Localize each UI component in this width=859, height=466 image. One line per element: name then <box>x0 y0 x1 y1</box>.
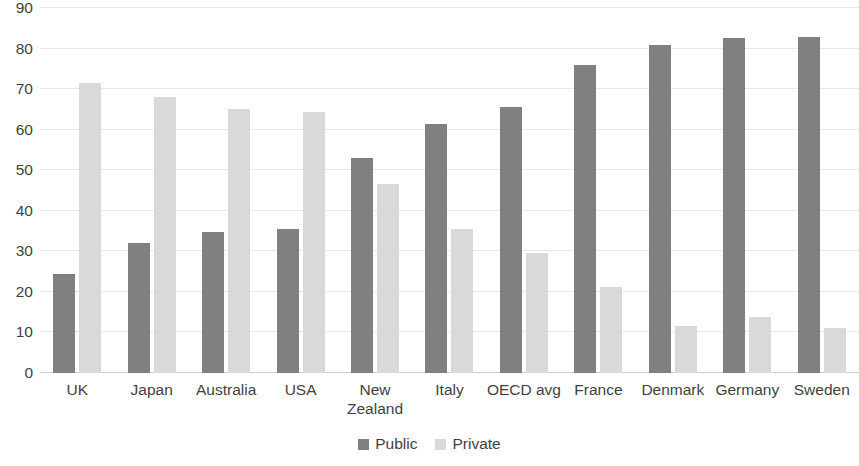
x-axis-label-oecd-avg: OECD avg <box>487 377 561 425</box>
y-axis-tick-20: 20 <box>16 284 33 299</box>
y-axis-tick-60: 60 <box>16 122 33 137</box>
x-axis-label-denmark: Denmark <box>636 377 710 425</box>
y-axis-tick-10: 10 <box>16 324 33 339</box>
x-axis-label-new-zealand: New Zealand <box>338 377 412 425</box>
bar-private <box>749 317 771 373</box>
y-axis-tick-0: 0 <box>24 365 33 380</box>
bar-groups <box>40 8 859 373</box>
bar-private <box>526 253 548 373</box>
plot-area <box>40 8 859 373</box>
legend-label: Public <box>375 436 417 452</box>
y-axis-tick-80: 80 <box>16 41 33 56</box>
x-axis-label-france: France <box>561 377 635 425</box>
bar-public <box>723 38 745 373</box>
bar-group <box>487 8 561 373</box>
bar-group <box>412 8 486 373</box>
legend-label: Private <box>452 436 500 452</box>
bar-group <box>338 8 412 373</box>
x-axis-label-japan: Japan <box>114 377 188 425</box>
bar-group <box>561 8 635 373</box>
bar-private <box>79 83 101 373</box>
bar-public <box>202 232 224 373</box>
y-axis-tick-40: 40 <box>16 203 33 218</box>
y-axis-tick-70: 70 <box>16 81 33 96</box>
bar-public <box>128 243 150 373</box>
bar-public <box>351 158 373 373</box>
bar-public <box>53 274 75 373</box>
y-axis: 9080706050403020100 <box>0 0 40 381</box>
bar-public <box>649 45 671 374</box>
bar-public <box>425 124 447 373</box>
bar-private <box>675 326 697 373</box>
bar-public <box>798 37 820 373</box>
bar-chart: 9080706050403020100 UKJapanAustraliaUSAN… <box>0 0 859 466</box>
x-axis-label-australia: Australia <box>189 377 263 425</box>
bar-group <box>710 8 784 373</box>
x-axis-label-germany: Germany <box>710 377 784 425</box>
bar-private <box>600 287 622 373</box>
x-axis-label-usa: USA <box>263 377 337 425</box>
legend-swatch-icon <box>358 439 369 450</box>
y-axis-tick-90: 90 <box>16 0 33 15</box>
bar-group <box>636 8 710 373</box>
bar-group <box>263 8 337 373</box>
legend-swatch-icon <box>435 439 446 450</box>
bar-public <box>574 65 596 373</box>
legend: PublicPrivate <box>0 436 859 452</box>
bar-group <box>785 8 859 373</box>
bar-group <box>40 8 114 373</box>
bar-private <box>451 229 473 373</box>
x-axis-label-uk: UK <box>40 377 114 425</box>
bar-group <box>114 8 188 373</box>
x-axis-label-italy: Italy <box>412 377 486 425</box>
bar-private <box>824 328 846 373</box>
bar-public <box>500 107 522 373</box>
bar-group <box>189 8 263 373</box>
bar-private <box>154 97 176 373</box>
y-axis-tick-50: 50 <box>16 162 33 177</box>
bar-public <box>277 229 299 373</box>
bar-private <box>303 112 325 373</box>
x-axis-label-sweden: Sweden <box>785 377 859 425</box>
x-axis-labels: UKJapanAustraliaUSANew ZealandItalyOECD … <box>40 377 859 425</box>
bar-private <box>377 184 399 373</box>
legend-item-public[interactable]: Public <box>358 436 417 452</box>
y-axis-tick-30: 30 <box>16 243 33 258</box>
bar-private <box>228 109 250 373</box>
legend-item-private[interactable]: Private <box>435 436 500 452</box>
